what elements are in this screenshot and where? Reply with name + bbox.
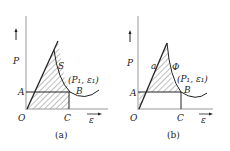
label-a-a: A xyxy=(17,87,25,97)
label-o-b: O xyxy=(130,113,138,123)
caption-a: (a) xyxy=(55,130,67,140)
label-o-a: O xyxy=(18,113,26,123)
p-arrowhead-a xyxy=(15,28,18,32)
figure: P S (P₁, ε₁) B A O C ε (a) P a Φ (P₁, ε₁… xyxy=(0,0,230,151)
caption-b: (b) xyxy=(167,130,180,140)
hatched-area-a xyxy=(27,41,70,109)
label-b-b: B xyxy=(183,85,191,95)
label-phi: Φ xyxy=(172,62,179,72)
label-c-a: C xyxy=(64,113,71,123)
label-a-b: A xyxy=(129,88,137,98)
label-eps-a: ε xyxy=(89,115,94,125)
eps-arrowhead-a xyxy=(98,113,102,116)
label-a-small: a xyxy=(151,61,156,71)
label-eps-b: ε xyxy=(201,115,206,125)
eps-arrowhead-b xyxy=(209,113,213,116)
label-b-a: B xyxy=(75,86,83,96)
p-arrowhead-b xyxy=(129,30,132,34)
panel-a: P S (P₁, ε₁) B A O C ε (a) xyxy=(12,16,108,140)
label-p-b: P xyxy=(126,58,134,68)
label-c-b: C xyxy=(177,113,184,123)
panel-b: P a Φ (P₁, ε₁) B A O C ε (b) xyxy=(126,16,213,140)
label-p-a: P xyxy=(12,56,20,66)
label-point-a: (P₁, ε₁) xyxy=(68,75,99,85)
label-s: S xyxy=(58,61,64,71)
label-point-b: (P₁, ε₁) xyxy=(177,74,208,84)
